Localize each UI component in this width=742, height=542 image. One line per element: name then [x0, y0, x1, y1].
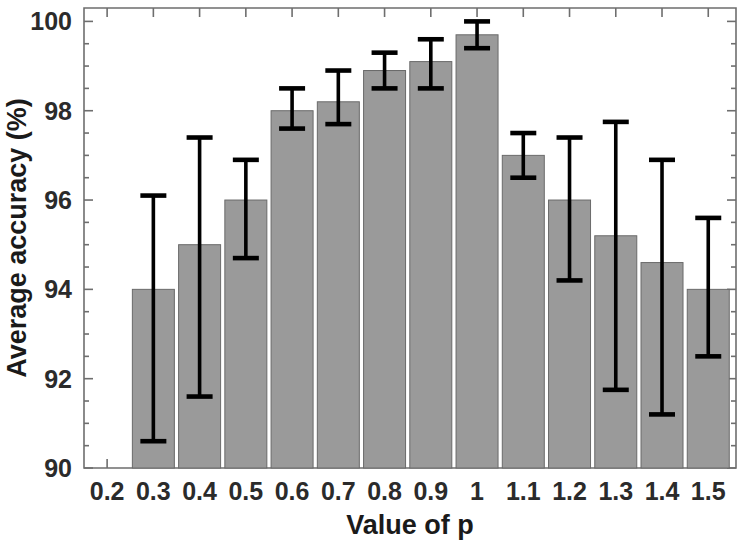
- x-tick-label: 0.3: [136, 477, 171, 505]
- x-tick-label: 0.7: [321, 477, 356, 505]
- y-tick-label: 98: [44, 97, 72, 125]
- x-tick-label: 1.4: [645, 477, 680, 505]
- x-tick-label: 1.1: [506, 477, 541, 505]
- bar: [502, 155, 544, 468]
- bar: [317, 102, 359, 468]
- x-tick-label: 1.5: [691, 477, 726, 505]
- y-tick-label: 100: [30, 7, 72, 35]
- x-axis-title: Value of p: [346, 510, 474, 540]
- y-tick-label: 94: [44, 275, 72, 303]
- x-tick-label: 1: [470, 477, 484, 505]
- bar-chart-figure: 9092949698100 0.20.30.40.50.60.70.80.911…: [0, 0, 742, 542]
- y-tick-label: 90: [44, 454, 72, 482]
- y-tick-label: 96: [44, 186, 72, 214]
- y-tick-label: 92: [44, 365, 72, 393]
- y-axis-tick-labels: 9092949698100: [30, 7, 72, 482]
- x-tick-label: 0.4: [182, 477, 217, 505]
- y-axis-title: Average accuracy (%): [2, 98, 32, 378]
- x-tick-label: 0.9: [413, 477, 448, 505]
- x-tick-label: 1.2: [552, 477, 587, 505]
- bar: [364, 71, 406, 468]
- bar: [410, 62, 452, 468]
- x-tick-label: 0.2: [90, 477, 125, 505]
- x-tick-label: 0.5: [228, 477, 263, 505]
- x-tick-label: 0.8: [367, 477, 402, 505]
- bar: [456, 35, 498, 468]
- chart-svg: 9092949698100 0.20.30.40.50.60.70.80.911…: [0, 0, 742, 542]
- x-tick-label: 0.6: [275, 477, 310, 505]
- x-tick-label: 1.3: [598, 477, 633, 505]
- bar: [271, 111, 313, 468]
- x-axis-tick-labels: 0.20.30.40.50.60.70.80.911.11.21.31.41.5: [90, 477, 726, 505]
